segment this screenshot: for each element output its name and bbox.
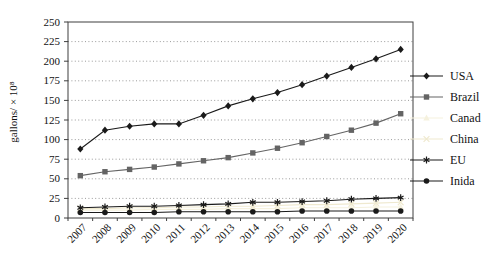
legend-item-usa: USA — [410, 69, 474, 83]
x-tick-label: 2018 — [336, 221, 360, 245]
legend-item-canad: Canad — [410, 111, 481, 125]
circle-marker — [127, 210, 133, 216]
circle-marker — [78, 210, 84, 216]
diamond-marker — [127, 123, 133, 130]
diamond-marker — [77, 145, 83, 152]
square-marker — [176, 161, 181, 166]
x-tick-label: 2015 — [262, 221, 286, 245]
gridlines — [68, 42, 413, 199]
diamond-marker — [225, 102, 231, 109]
diamond-marker — [398, 46, 404, 53]
chart-canvas: 0255075100125150175200225250 20072008200… — [0, 0, 498, 254]
x-tick-label: 2008 — [89, 221, 113, 245]
circle-marker — [324, 208, 330, 214]
series-lines — [77, 46, 404, 215]
x-tick-label: 2016 — [286, 221, 310, 245]
circle-marker — [349, 208, 355, 214]
y-axis-title: gallons/ × 10⁸ — [7, 81, 19, 143]
circle-marker — [275, 209, 281, 215]
legend-label-usa: USA — [450, 69, 474, 83]
square-marker — [127, 167, 132, 172]
square-marker — [398, 111, 403, 116]
circle-marker — [151, 210, 157, 216]
y-tick-label: 250 — [44, 16, 61, 28]
square-marker — [225, 155, 230, 160]
legend-item-china: China — [410, 132, 479, 146]
legend-item-inida: Inida — [410, 174, 475, 188]
x-tick-label: 2009 — [114, 221, 138, 245]
y-tick-label: 100 — [44, 133, 61, 145]
x-tick-label: 2010 — [139, 221, 163, 245]
y-tick-label: 75 — [49, 153, 61, 165]
legend-label-china: China — [450, 132, 479, 146]
legend: USABrazilCanadChinaEUInida — [410, 69, 481, 188]
circle-marker — [424, 178, 430, 184]
axes — [64, 22, 413, 221]
circle-marker — [250, 209, 256, 215]
square-marker — [424, 94, 429, 99]
legend-label-canad: Canad — [450, 111, 481, 125]
diamond-marker — [151, 120, 157, 127]
square-marker — [299, 140, 304, 145]
legend-label-brazil: Brazil — [450, 90, 480, 104]
x-axis-labels: 2007200820092010201120122013201420152016… — [65, 221, 410, 245]
diamond-marker — [274, 89, 280, 96]
diamond-marker — [200, 112, 206, 119]
x-tick-label: 2017 — [311, 221, 335, 245]
diamond-marker — [348, 64, 354, 71]
square-marker — [349, 127, 354, 132]
y-tick-label: 200 — [44, 55, 61, 67]
y-axis-labels: 0255075100125150175200225250 — [44, 16, 61, 224]
series-brazil-line — [80, 114, 400, 176]
square-marker — [373, 120, 378, 125]
x-tick-label: 2011 — [164, 221, 188, 245]
circle-marker — [299, 208, 305, 214]
x-tick-label: 2019 — [360, 221, 384, 245]
y-tick-label: 25 — [49, 192, 61, 204]
square-marker — [152, 164, 157, 169]
circle-marker — [398, 208, 404, 214]
x-tick-label: 2014 — [237, 221, 261, 245]
y-tick-label: 175 — [44, 74, 61, 86]
square-marker — [275, 146, 280, 151]
x-tick-label: 2012 — [188, 221, 212, 245]
diamond-marker — [250, 95, 256, 102]
diamond-marker — [102, 127, 108, 134]
y-tick-label: 150 — [44, 94, 61, 106]
square-marker — [250, 150, 255, 155]
series-inida — [78, 208, 404, 215]
y-tick-label: 125 — [44, 114, 61, 126]
x-tick-label: 2020 — [385, 221, 409, 245]
legend-label-eu: EU — [450, 153, 466, 167]
y-tick-label: 225 — [44, 35, 61, 47]
series-usa-line — [80, 49, 400, 149]
x-tick-label: 2007 — [65, 221, 89, 245]
diamond-marker — [176, 120, 182, 127]
series-usa — [77, 46, 404, 153]
circle-marker — [176, 209, 182, 215]
y-tick-label: 0 — [55, 212, 61, 224]
x-tick-label: 2013 — [213, 221, 237, 245]
diamond-marker — [324, 72, 330, 79]
circle-marker — [225, 209, 231, 215]
circle-marker — [102, 210, 108, 216]
square-marker — [78, 173, 83, 178]
square-marker — [201, 158, 206, 163]
circle-marker — [201, 209, 207, 215]
series-brazil — [78, 111, 404, 178]
legend-item-eu: EU — [410, 153, 466, 167]
y-tick-label: 50 — [49, 172, 61, 184]
line-chart-figure: 0255075100125150175200225250 20072008200… — [0, 0, 498, 254]
legend-label-inida: Inida — [450, 174, 475, 188]
diamond-marker — [299, 81, 305, 88]
legend-item-brazil: Brazil — [410, 90, 480, 104]
square-marker — [102, 169, 107, 174]
diamond-marker — [423, 72, 429, 79]
square-marker — [324, 134, 329, 139]
circle-marker — [373, 208, 379, 214]
